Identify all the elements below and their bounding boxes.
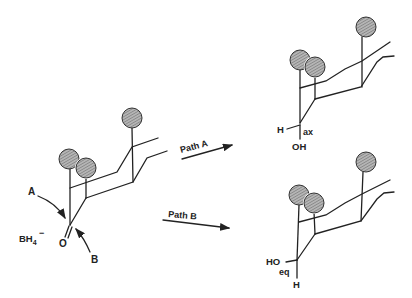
h-label: H	[277, 124, 284, 135]
ring-bond	[70, 198, 86, 225]
ring-bond	[297, 234, 315, 260]
attack-label-b: B	[91, 254, 98, 265]
axial-label: ax	[303, 127, 313, 137]
substituent-sphere	[304, 193, 324, 213]
substituent-sphere	[305, 57, 325, 77]
ring-front-edge	[315, 56, 394, 99]
reagent-label: BH4	[19, 233, 37, 246]
substituent-sphere	[76, 158, 96, 178]
axial-bond	[297, 205, 299, 260]
ring-bond	[300, 99, 315, 123]
path-a: Path A	[179, 138, 232, 159]
equatorial-label: eq	[279, 267, 290, 277]
borohydride-reagent: BH4 −	[19, 228, 44, 246]
oxygen-label: O	[59, 238, 67, 249]
substituent-sphere	[356, 152, 376, 172]
oh-label: OH	[292, 141, 306, 152]
h-label: H	[293, 279, 300, 290]
axial-bond	[361, 172, 363, 221]
product-axial-alcohol: H ax OH	[277, 17, 394, 152]
attack-arrow-a	[38, 196, 65, 218]
substituent-sphere	[122, 108, 142, 128]
path-b-label: Path B	[168, 209, 198, 221]
reaction-diagram: O A B BH4 − Path A Path B H ax	[0, 0, 412, 298]
axial-bond	[314, 212, 315, 234]
path-b: Path B	[163, 209, 229, 228]
attack-arrow-b	[76, 229, 90, 252]
ring-front-edge	[86, 151, 167, 198]
substituent-sphere	[356, 17, 376, 37]
ho-label: HO	[266, 256, 280, 267]
h-bond	[287, 125, 300, 129]
cyclohexanone-reactant: O	[59, 108, 167, 249]
axial-bond	[132, 128, 133, 182]
ho-bond	[286, 260, 297, 262]
product-equatorial-alcohol: HO eq H	[266, 152, 394, 290]
reagent-charge: −	[39, 228, 44, 238]
attack-label-a: A	[28, 186, 35, 197]
